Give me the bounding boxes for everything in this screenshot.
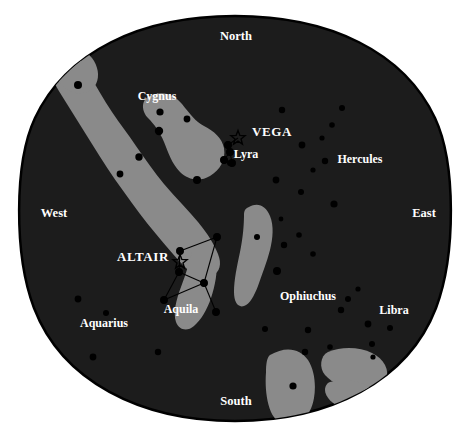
star-point [224, 141, 231, 148]
star-point [184, 116, 191, 123]
star-point [296, 232, 302, 238]
asterism-star [176, 269, 183, 276]
star-point [319, 135, 324, 140]
star-point [90, 354, 97, 361]
star-point [227, 160, 233, 166]
aquarius-label: Aquarius [80, 316, 128, 330]
asterism-star [214, 234, 221, 241]
star-point [339, 105, 345, 111]
asterism-star [213, 309, 220, 316]
star-point [345, 296, 351, 302]
star-point [302, 349, 308, 355]
star-point [193, 176, 201, 184]
asterism-star [201, 280, 208, 287]
star-point [117, 171, 124, 178]
south-label: South [220, 394, 251, 408]
star-point [262, 326, 268, 332]
lyra-label: Lyra [234, 147, 259, 161]
cygnus-label: Cygnus [138, 89, 177, 103]
star-chart: NorthEastSouthWest CygnusLyraHerculesAqu… [0, 0, 471, 437]
star-point [329, 122, 335, 128]
star-point [279, 107, 285, 113]
altair-label: ALTAIR [117, 249, 169, 264]
star-point [322, 158, 328, 164]
star-point [387, 325, 393, 331]
star-point [155, 127, 163, 135]
star-point [281, 242, 287, 248]
west-label: West [41, 206, 68, 220]
star-point [75, 296, 82, 303]
star-point [289, 382, 296, 389]
star-point [327, 344, 333, 350]
star-point [135, 153, 142, 160]
star-point [155, 349, 161, 355]
aquila-label: Aquila [164, 302, 199, 316]
north-label: North [220, 29, 252, 43]
star-point [369, 341, 375, 347]
star-point [330, 200, 337, 207]
star-point [355, 286, 360, 291]
hercules-label: Hercules [337, 152, 382, 166]
ophiuchus-label: Ophiuchus [280, 289, 336, 303]
star-point [273, 177, 280, 184]
east-label: East [412, 206, 436, 220]
star-point [338, 307, 344, 313]
asterism-star [227, 149, 234, 156]
star-point [310, 251, 316, 257]
star-point [305, 327, 311, 333]
star-point [279, 217, 284, 222]
star-point [156, 108, 163, 115]
star-point [74, 81, 82, 89]
star-point [365, 321, 372, 328]
star-point [299, 142, 306, 149]
libra-label: Libra [379, 303, 408, 317]
star-point [298, 189, 304, 195]
star-point [221, 157, 228, 164]
star-point [310, 167, 315, 172]
star-point [273, 267, 281, 275]
vega-label: VEGA [252, 124, 292, 139]
star-point [254, 234, 260, 240]
star-point [370, 354, 375, 359]
